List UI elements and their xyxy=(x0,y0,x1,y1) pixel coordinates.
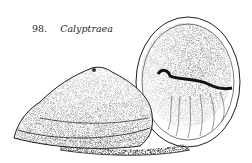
shell-illustration xyxy=(0,0,252,163)
